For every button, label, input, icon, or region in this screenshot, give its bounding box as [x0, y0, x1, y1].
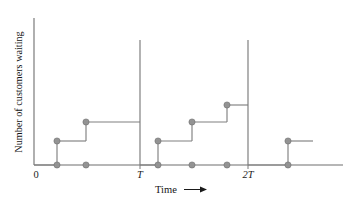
step-path-cycle-2 — [140, 105, 248, 165]
tick-label-origin: 0 — [33, 169, 38, 180]
event-dot — [155, 162, 161, 168]
x-axis-title-group: Time — [155, 184, 207, 195]
event-dot — [224, 102, 230, 108]
step-path-cycle-1 — [34, 122, 140, 165]
event-dot — [224, 162, 230, 168]
event-dot — [285, 138, 291, 144]
event-dot — [285, 162, 291, 168]
x-axis-tick-labels: 0 T 2T — [33, 169, 254, 180]
tick-label-2T: 2T — [242, 169, 254, 180]
y-axis-label: Number of customers waiting — [13, 31, 24, 152]
y-axis-label-text: Number of customers waiting — [13, 31, 24, 152]
x-axis-title-text: Time — [155, 184, 177, 195]
step-function-plot: Number of customers waiting — [0, 0, 357, 200]
step-path-cycle-3 — [248, 141, 313, 165]
event-dot — [54, 138, 60, 144]
arrival-event-dots — [54, 102, 291, 168]
queueing-step-figure: Number of customers waiting — [0, 0, 357, 200]
event-dot — [83, 162, 89, 168]
event-dot — [189, 119, 195, 125]
event-dot — [54, 162, 60, 168]
event-dot — [83, 119, 89, 125]
tick-label-T: T — [137, 169, 144, 180]
event-dot — [189, 162, 195, 168]
event-dot — [155, 138, 161, 144]
arrow-right-icon — [184, 187, 207, 193]
